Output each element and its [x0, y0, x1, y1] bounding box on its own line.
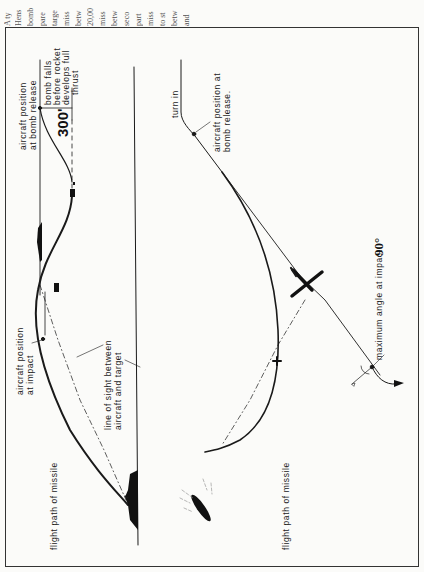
svg-text:aircraft position at: aircraft position at — [212, 73, 222, 152]
svg-text:bomb release.: bomb release. — [222, 90, 232, 152]
svg-text:aircraft position: aircraft position — [15, 327, 25, 395]
arrow-head-icon — [394, 380, 404, 387]
svg-text:aircraft position: aircraft position — [18, 82, 28, 150]
svg-text:turn in: turn in — [170, 90, 180, 118]
ship-silhouette — [125, 470, 138, 530]
line-of-sight-right — [222, 300, 305, 445]
aircraft-silhouette — [37, 222, 42, 262]
svg-text:flight path of missile: flight path of missile — [49, 462, 59, 550]
svg-text:90°: 90° — [371, 238, 386, 256]
svg-text:line of sight between: line of sight between — [103, 340, 113, 430]
svg-text:300': 300' — [54, 108, 71, 137]
label-max-angle: maximum angle at impact: 90° — [371, 238, 386, 360]
label-flight-path-right: flight path of missile — [281, 462, 291, 550]
document-page: A ty Hens bomb pare targe miss betw 20,0… — [0, 0, 424, 572]
svg-text:maximum angle at impact:: maximum angle at impact: — [374, 246, 384, 360]
aircraft-track-line — [222, 172, 380, 375]
label-aircraft-impact-left: aircraft position at impact — [15, 327, 35, 395]
missile-plan-silhouette — [273, 357, 281, 365]
svg-text:at impact: at impact — [25, 355, 35, 395]
label-line-of-sight: line of sight between aircraft and targe… — [103, 340, 123, 430]
label-flight-path-left: flight path of missile — [49, 462, 59, 550]
svg-text:aircraft and target: aircraft and target — [113, 352, 123, 430]
svg-text:thrust: thrust — [70, 70, 80, 95]
label-turn-in: turn in — [170, 90, 180, 118]
bomber-plan-silhouette — [292, 270, 322, 296]
label-bomb-falls: bomb falls before rocket develops full t… — [43, 48, 80, 105]
attack-profile-diagram: aircraft position at bomb release bomb f… — [0, 0, 424, 572]
label-aircraft-release-left: aircraft position at bomb release — [18, 80, 38, 150]
label-drop-height: 300' — [54, 108, 71, 137]
svg-text:at bomb release: at bomb release — [28, 80, 38, 150]
svg-text:flight path of missile: flight path of missile — [281, 462, 291, 550]
missile-flight-path-left — [36, 196, 128, 505]
missile-flight-path-right — [205, 172, 278, 452]
label-aircraft-release-right: aircraft position at bomb release. — [212, 73, 232, 152]
